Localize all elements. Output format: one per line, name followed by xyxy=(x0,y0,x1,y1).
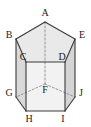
prism-drawing xyxy=(0,0,91,127)
vertex-label-j: J xyxy=(75,88,87,98)
vertex-label-g: G xyxy=(3,88,15,98)
vertex-label-d: D xyxy=(56,52,68,62)
vertex-label-b: B xyxy=(3,30,15,40)
vertex-label-a: A xyxy=(39,8,51,18)
pentagonal-prism-figure: ABCDEFGHIJ xyxy=(0,0,91,127)
vertex-label-e: E xyxy=(76,30,88,40)
vertex-label-i: I xyxy=(57,114,69,124)
prism-faces xyxy=(16,22,75,111)
vertex-label-c: C xyxy=(17,52,29,62)
vertex-label-f: F xyxy=(39,85,51,95)
vertex-label-h: H xyxy=(23,114,35,124)
